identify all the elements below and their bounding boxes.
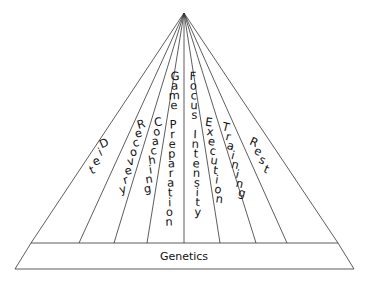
label-letter: n xyxy=(165,214,173,228)
pyramid-lines xyxy=(31,13,338,243)
segment-label-training: Training xyxy=(220,119,247,200)
segment-label-rest: Rest xyxy=(247,134,272,177)
segment-divider xyxy=(184,13,220,243)
segment-label-focus-intensity: FocusIntensity xyxy=(189,69,201,219)
segment-label-diet: Diet xyxy=(87,135,111,178)
label-letter: y xyxy=(194,205,201,219)
pyramid-diagram: Genetics DietRecoveryCoachingGamePrepara… xyxy=(0,0,365,286)
label-letter: e xyxy=(170,98,178,112)
label-letter: n xyxy=(215,191,224,206)
genetics-label: Genetics xyxy=(160,250,208,263)
label-letter: s xyxy=(191,108,197,122)
segment-label-game-preparation: GamePreparation xyxy=(165,69,180,229)
